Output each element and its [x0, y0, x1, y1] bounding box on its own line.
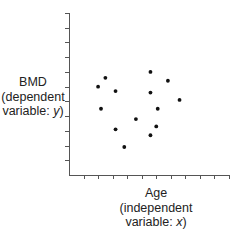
y-axis-label-line-3-text: variable: y)	[2, 104, 63, 118]
data-point	[154, 125, 158, 129]
y-axis-label-line-1: BMD	[0, 75, 66, 90]
data-point	[122, 145, 126, 149]
data-point	[149, 133, 153, 137]
data-point	[178, 98, 182, 102]
y-axis-label-line-2: (dependent	[0, 90, 66, 105]
data-point	[114, 127, 118, 131]
data-point	[103, 76, 107, 80]
x-axis-label-line-2: (independent	[110, 201, 202, 216]
variable-symbol: x	[176, 215, 182, 229]
x-axis-label-line-3: variable: x)	[110, 215, 202, 230]
data-point	[156, 107, 160, 111]
data-points	[96, 70, 181, 149]
data-point	[166, 79, 170, 83]
y-axis-label: BMD (dependent variable: y)	[0, 75, 66, 119]
data-point	[114, 89, 118, 93]
variable-symbol: y	[53, 104, 59, 118]
data-point	[99, 107, 103, 111]
x-axis-label-line-3-text: variable: x)	[125, 215, 186, 229]
data-point	[96, 85, 100, 89]
data-point	[149, 70, 153, 74]
y-axis-label-line-3: variable: y)	[0, 104, 66, 119]
data-point	[149, 91, 153, 95]
x-axis-label: Age (independent variable: x)	[110, 186, 202, 230]
x-axis-label-line-1: Age	[110, 186, 202, 201]
axes	[65, 13, 230, 179]
data-point	[134, 117, 138, 121]
